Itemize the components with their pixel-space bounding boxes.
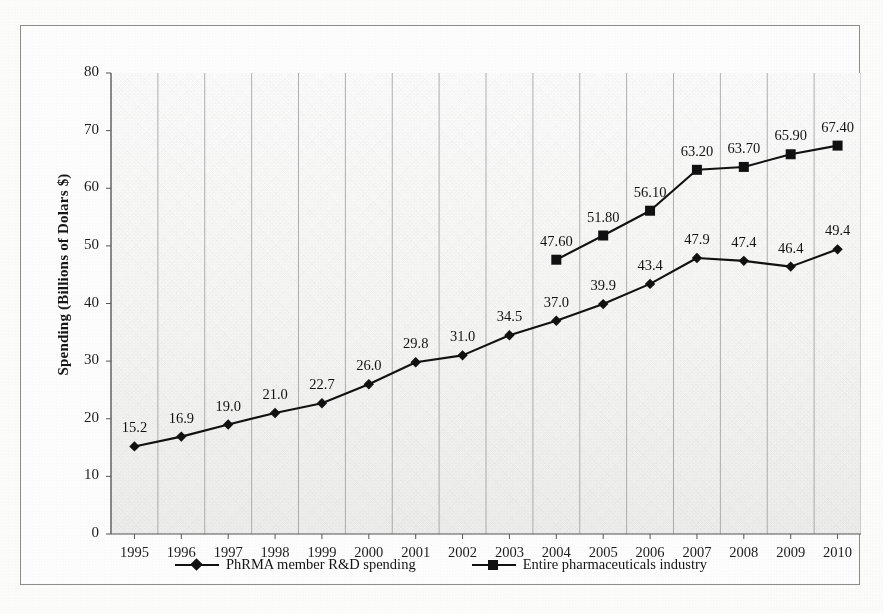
diamond-marker: [270, 408, 280, 418]
diamond-marker: [176, 431, 186, 441]
data-point-label: 49.4: [808, 222, 868, 239]
diamond-marker: [317, 398, 327, 408]
diamond-marker: [645, 279, 655, 289]
square-marker: [692, 165, 702, 175]
data-point-label: 43.4: [620, 257, 680, 274]
chart-page: Spending (Billions of Dolars $) 01020304…: [0, 0, 883, 613]
square-marker: [551, 255, 561, 265]
diamond-marker: [504, 330, 514, 340]
square-marker: [645, 206, 655, 216]
diamond-marker: [785, 261, 795, 271]
diamond-marker: [739, 256, 749, 266]
legend-item-phrma[interactable]: PhRMA member R&D spending: [175, 556, 416, 573]
square-marker: [739, 162, 749, 172]
data-point-label: 22.7: [292, 376, 352, 393]
diamond-marker: [129, 441, 139, 451]
diamond-marker: [551, 316, 561, 326]
data-point-label: 37.0: [526, 294, 586, 311]
chart-frame: Spending (Billions of Dolars $) 01020304…: [20, 25, 860, 585]
data-point-label: 56.10: [620, 184, 680, 201]
diamond-marker: [692, 253, 702, 263]
data-point-label: 31.0: [433, 328, 493, 345]
legend-label: Entire pharmaceuticals industry: [523, 556, 707, 573]
chart-canvas: [21, 26, 861, 586]
diamond-marker: [598, 299, 608, 309]
diamond-marker: [832, 244, 842, 254]
square-marker: [833, 141, 843, 151]
square-marker: [786, 149, 796, 159]
diamond-marker-icon: [175, 558, 219, 572]
square-marker-icon: [472, 558, 516, 572]
diamond-marker: [223, 419, 233, 429]
legend-item-industry[interactable]: Entire pharmaceuticals industry: [472, 556, 707, 573]
data-point-label: 51.80: [573, 209, 633, 226]
data-point-label: 46.4: [761, 240, 821, 257]
data-point-label: 67.40: [808, 119, 868, 136]
diamond-marker: [457, 350, 467, 360]
chart-legend: PhRMA member R&D spending Entire pharmac…: [21, 556, 861, 573]
diamond-marker: [410, 357, 420, 367]
diamond-marker: [364, 379, 374, 389]
data-point-label: 47.60: [526, 233, 586, 250]
legend-label: PhRMA member R&D spending: [226, 556, 416, 573]
data-point-label: 39.9: [573, 277, 633, 294]
data-point-label: 26.0: [339, 357, 399, 374]
square-marker: [598, 231, 608, 241]
